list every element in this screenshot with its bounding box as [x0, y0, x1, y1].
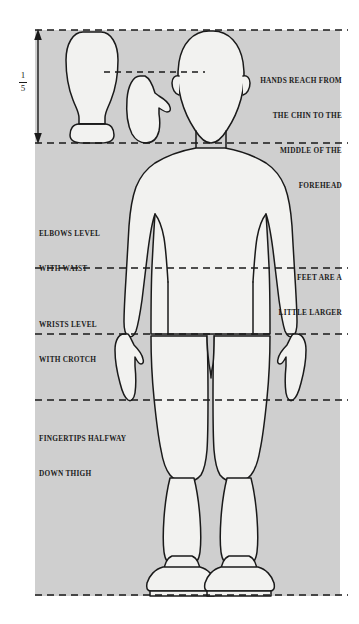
annotation-fingertips-line-2: DOWN THIGH [39, 468, 126, 480]
left-calf-outline [163, 478, 201, 565]
annotation-wrists-line-2: WITH CROTCH [39, 354, 97, 366]
annotation-wrists-line-1: WRISTS LEVEL [39, 319, 97, 331]
annotation-fingertips-line-1: FINGERTIPS HALFWAY [39, 433, 126, 445]
annotation-hands-reach: HANDS REACH FROM THE CHIN TO THE MIDDLE … [260, 29, 342, 353]
shoe-heel-outline [70, 124, 114, 143]
annotation-hands-line-1: HANDS REACH FROM [260, 75, 342, 87]
annotation-feet-line-2: LITTLE LARGER [260, 307, 342, 319]
annotation-elbows-line-1: ELBOWS LEVEL [39, 228, 100, 240]
annotation-elbows: ELBOWS LEVEL WITH WAIST [39, 205, 100, 286]
annotation-hands-line-3: MIDDLE OF THE [260, 145, 342, 157]
annotation-wrists: WRISTS LEVEL WITH CROTCH [39, 296, 97, 377]
annotation-fingertips: FINGERTIPS HALFWAY DOWN THIGH [39, 410, 126, 491]
right-calf-outline [220, 478, 258, 565]
annotation-elbows-line-2: WITH WAIST [39, 263, 100, 275]
annotation-feet-line-1: FEET ARE A [260, 272, 342, 284]
fraction-numerator: 1 [12, 71, 34, 80]
fraction-denominator: 5 [12, 84, 34, 93]
annotation-hands-line-2: THE CHIN TO THE [260, 110, 342, 122]
right-shoe-outline [205, 567, 275, 591]
one-fifth-fraction: 1 5 [12, 71, 34, 93]
annotation-hands-line-4: FOREHEAD [260, 180, 342, 192]
